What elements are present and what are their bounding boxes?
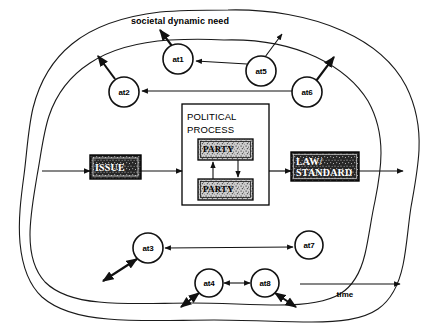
diagram-title: societal dynamic need (131, 16, 229, 26)
connector-at6-outward (316, 57, 334, 81)
diagram-canvas: societal dynamic need POLITICAL PROCESS … (0, 0, 448, 331)
node-at7[interactable]: at7 (295, 231, 323, 259)
connector-at5-to-at1 (196, 61, 247, 64)
connector-at4-outward (181, 293, 199, 307)
node-label-at3: at3 (143, 244, 155, 253)
issue-box: ISSUE (90, 155, 141, 179)
node-label-at7: at7 (304, 241, 316, 250)
node-label-at5: at5 (256, 67, 268, 76)
node-label-at8: at8 (260, 279, 272, 288)
node-at3[interactable]: at3 (133, 233, 163, 263)
connector-at5-outward (265, 34, 282, 57)
node-label-at4: at4 (204, 279, 216, 288)
issue-label: ISSUE (95, 162, 125, 173)
connector-at3-outward (103, 259, 137, 281)
connector-at1-outward (160, 30, 172, 46)
node-at5[interactable]: at5 (246, 56, 276, 86)
political-process-title-line1: POLITICAL (187, 111, 236, 122)
node-at1[interactable]: at1 (163, 44, 193, 74)
connector-at2-outward (98, 56, 115, 79)
node-at8[interactable]: at8 (251, 269, 279, 297)
party-top-label: PARTY (203, 144, 234, 154)
node-at2[interactable]: at2 (109, 77, 139, 107)
node-label-at2: at2 (119, 88, 131, 97)
node-label-at6: at6 (302, 88, 314, 97)
political-process-title-line2: PROCESS (187, 124, 234, 135)
law-label-line1: LAW/ (296, 156, 322, 167)
law-label-line2: STANDARD (296, 167, 352, 178)
node-at6[interactable]: at6 (292, 77, 322, 107)
time-axis-label: time (337, 290, 354, 299)
party-bottom-box: PARTY (198, 179, 253, 200)
connector-at3-at7 (165, 247, 293, 248)
node-at4[interactable]: at4 (195, 269, 223, 297)
party-bottom-label: PARTY (203, 184, 234, 194)
node-label-at1: at1 (173, 55, 185, 64)
party-top-box: PARTY (198, 139, 253, 160)
law-standard-box: LAW/ STANDARD (291, 152, 359, 181)
